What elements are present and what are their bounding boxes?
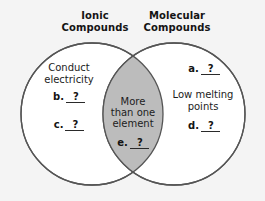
overlap-set-property: More than one element bbox=[106, 96, 160, 129]
left-set-property: Conduct electricity bbox=[30, 62, 108, 85]
blank-item-e[interactable]: e.? bbox=[104, 137, 162, 149]
blank-item-e-answer[interactable]: ? bbox=[130, 137, 149, 149]
blank-item-a-letter: a. bbox=[188, 63, 199, 74]
blank-item-a[interactable]: a.? bbox=[166, 63, 242, 75]
right-set-property: Low melting points bbox=[160, 89, 246, 112]
blank-item-d[interactable]: d.? bbox=[166, 120, 242, 132]
blank-item-d-answer[interactable]: ? bbox=[201, 120, 220, 132]
blank-item-e-letter: e. bbox=[117, 137, 128, 148]
overlap-set-property-line1: More bbox=[106, 96, 160, 107]
blank-item-b[interactable]: b.? bbox=[30, 91, 108, 103]
overlap-set-property-line2: than one bbox=[106, 107, 160, 118]
left-set-property-line1: Conduct bbox=[30, 62, 108, 74]
blank-item-c[interactable]: c.? bbox=[30, 119, 108, 131]
overlap-set-property-line3: element bbox=[106, 118, 160, 129]
right-set-property-line2: points bbox=[160, 101, 246, 113]
left-set-property-line2: electricity bbox=[30, 74, 108, 86]
blank-item-d-letter: d. bbox=[188, 120, 199, 131]
blank-item-a-answer[interactable]: ? bbox=[201, 63, 220, 75]
right-set-property-line1: Low melting bbox=[160, 89, 246, 101]
blank-item-c-answer[interactable]: ? bbox=[65, 119, 84, 131]
venn-diagram-figure: Ionic Compounds Molecular Compounds Cond… bbox=[0, 0, 265, 201]
blank-item-b-letter: b. bbox=[53, 91, 64, 102]
blank-item-b-answer[interactable]: ? bbox=[66, 91, 85, 103]
blank-item-c-letter: c. bbox=[54, 119, 64, 130]
